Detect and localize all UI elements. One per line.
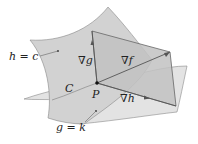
- g-pointer-dot: [95, 110, 97, 112]
- label-grad-f: ∇f: [121, 54, 135, 67]
- label-g-equals-k: g = k: [56, 121, 86, 134]
- label-h-equals-c: h = c: [9, 50, 38, 63]
- h-pointer-dot: [57, 50, 59, 52]
- label-point-p: P: [91, 88, 100, 101]
- point-p: [95, 81, 99, 85]
- label-grad-g: ∇g: [78, 54, 93, 67]
- label-curve-c: C: [65, 82, 74, 95]
- lagrange-diagram: h = c g = k C P ∇g ∇f ∇h: [0, 0, 198, 144]
- label-grad-h: ∇h: [120, 92, 135, 105]
